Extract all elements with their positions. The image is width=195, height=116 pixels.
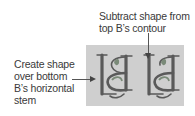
annotation-left-line-2: over bottom <box>14 70 86 82</box>
annotation-left: Create shape over bottom B’s horizontal … <box>14 58 86 106</box>
annotation-left-line-3: B’s horizontal <box>14 82 86 94</box>
monogram-left-glyph <box>92 50 138 102</box>
annotation-top-line-1: Subtract shape from <box>99 10 195 22</box>
arrow-top-line <box>148 33 149 55</box>
arrow-right-icon <box>90 76 96 82</box>
arrow-left-line <box>72 79 92 80</box>
arrow-down-icon <box>145 53 151 59</box>
annotation-left-line-1: Create shape <box>14 58 86 70</box>
annotation-left-line-4: stem <box>14 94 86 106</box>
annotation-top: Subtract shape from top B’s contour <box>99 10 195 34</box>
annotation-top-line-2: top B’s contour <box>99 22 195 34</box>
